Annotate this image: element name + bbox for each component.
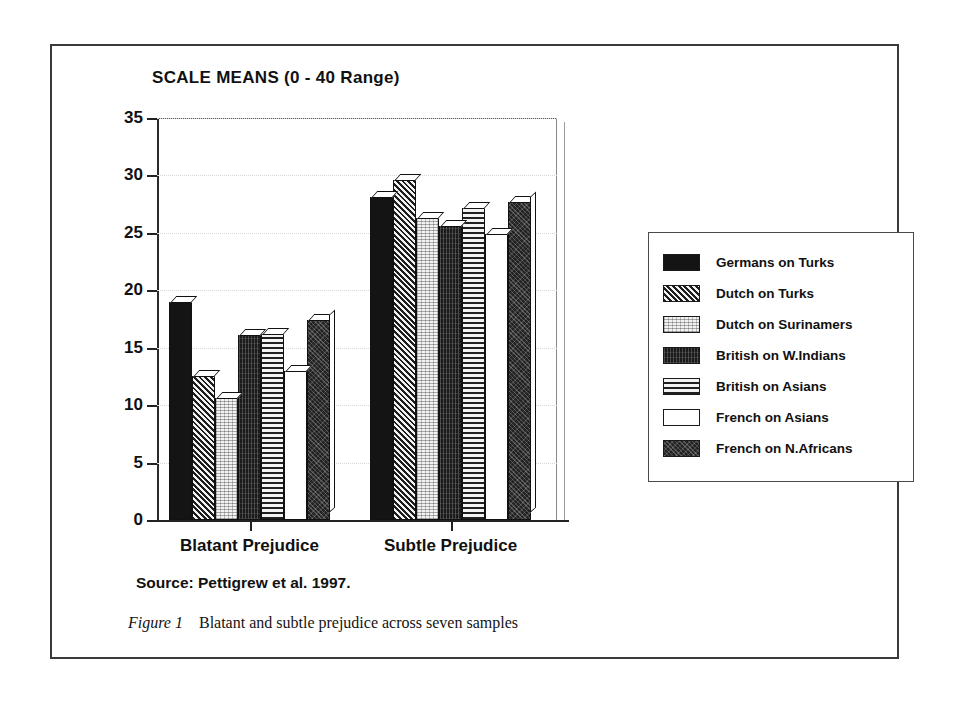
legend-swatch (663, 285, 700, 302)
legend-item[interactable]: Dutch on Surinamers (663, 309, 913, 340)
y-axis-label: 10 (124, 395, 143, 415)
x-axis-group-label: Blatant Prejudice (180, 536, 319, 556)
figure-caption: Figure 1Blatant and subtle prejudice acr… (128, 614, 518, 632)
y-axis-label: 25 (124, 223, 143, 243)
bar (370, 197, 393, 520)
bar (416, 218, 439, 520)
bar (261, 334, 284, 520)
y-axis-tick (147, 290, 157, 292)
y-axis-label: 30 (124, 165, 143, 185)
bar-top-face (193, 370, 220, 377)
figure-number: Figure 1 (128, 614, 183, 631)
figure-caption-text: Blatant and subtle prejudice across seve… (199, 614, 518, 631)
bar-side-face (329, 310, 335, 513)
bar (215, 398, 238, 520)
y-axis-tick (147, 175, 157, 177)
bar-top-face (170, 296, 197, 303)
x-axis-line (157, 520, 569, 522)
legend-label: French on Asians (716, 410, 829, 425)
source-note: Source: Pettigrew et al. 1997. (136, 574, 351, 592)
bar-side-face (530, 191, 536, 513)
legend-label: British on W.Indians (716, 348, 846, 363)
legend-label: British on Asians (716, 379, 827, 394)
legend-label: Dutch on Surinamers (716, 317, 853, 332)
bar (485, 234, 508, 520)
bar (508, 202, 531, 520)
legend-item[interactable]: French on N.Africans (663, 433, 913, 464)
bar (192, 376, 215, 520)
legend-swatch (663, 254, 700, 271)
chart-title: SCALE MEANS (0 - 40 Range) (152, 68, 400, 88)
figure-frame: SCALE MEANS (0 - 40 Range) 0510152025303… (50, 44, 899, 659)
chart-legend: Germans on TurksDutch on TurksDutch on S… (648, 232, 914, 482)
y-axis-tick (147, 233, 157, 235)
legend-swatch (663, 409, 700, 426)
y-axis-tick (147, 405, 157, 407)
x-axis-tick (451, 520, 453, 531)
y-axis-tick (147, 463, 157, 465)
y-axis-tick (147, 348, 157, 350)
bars-layer (157, 118, 557, 520)
legend-item[interactable]: British on W.Indians (663, 340, 913, 371)
y-axis-tick (147, 520, 157, 522)
y-axis-label: 0 (134, 510, 143, 530)
y-axis-label: 15 (124, 338, 143, 358)
legend-label: French on N.Africans (716, 441, 853, 456)
legend-item[interactable]: French on Asians (663, 402, 913, 433)
bar (393, 180, 416, 520)
bar-top-face (417, 212, 444, 219)
legend-item[interactable]: Germans on Turks (663, 247, 913, 278)
legend-swatch (663, 378, 700, 395)
bar (238, 335, 261, 520)
bar (439, 226, 462, 520)
bar (462, 208, 485, 520)
bar-top-face (394, 174, 421, 181)
y-axis-label: 35 (124, 108, 143, 128)
bar (307, 320, 330, 520)
bar (284, 371, 307, 520)
x-axis-group-label: Subtle Prejudice (384, 536, 517, 556)
legend-swatch (663, 347, 700, 364)
y-axis-tick (147, 118, 157, 120)
y-axis-label: 20 (124, 280, 143, 300)
legend-item[interactable]: Dutch on Turks (663, 278, 913, 309)
legend-swatch (663, 316, 700, 333)
bar (169, 302, 192, 520)
y-axis-label: 5 (134, 453, 143, 473)
bar-top-face (463, 202, 490, 209)
x-axis-tick (250, 520, 252, 531)
legend-swatch (663, 440, 700, 457)
chart-plot-area: 05101520253035 Blatant PrejudiceSubtle P… (157, 118, 567, 564)
legend-label: Dutch on Turks (716, 286, 814, 301)
legend-item[interactable]: British on Asians (663, 371, 913, 402)
legend-label: Germans on Turks (716, 255, 834, 270)
